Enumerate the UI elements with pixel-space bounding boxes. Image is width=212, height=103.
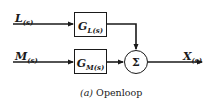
figure-caption: (a) Openloop bbox=[80, 87, 142, 98]
input-label-L: L(s) bbox=[15, 7, 33, 26]
output-label-X: X(s) bbox=[183, 45, 202, 64]
summing-junction: Σ bbox=[124, 50, 148, 74]
sigma-icon: Σ bbox=[132, 56, 140, 69]
signal-line-GL-to-sum bbox=[106, 24, 136, 49]
input-label-M: M(s) bbox=[15, 45, 38, 64]
block-GM: GM(s) bbox=[74, 49, 107, 74]
block-GL: GL(s) bbox=[74, 12, 107, 37]
